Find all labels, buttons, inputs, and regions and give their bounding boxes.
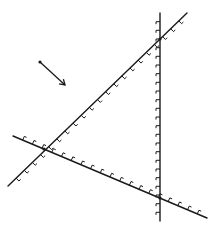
hatch-tick (114, 84, 119, 87)
hatch-tick (138, 60, 143, 63)
hatch-tick (49, 147, 54, 150)
hatch-tick (62, 153, 66, 157)
hatch-tick (32, 141, 36, 145)
hatch-tick (106, 92, 111, 95)
hatch-tick (81, 161, 85, 165)
hatch-tick (149, 190, 153, 194)
hatch-tick (171, 29, 176, 32)
hatch-tick (188, 206, 192, 210)
direction-arrow (38, 60, 65, 85)
arrow-shaft (40, 62, 65, 85)
hatch-tick (32, 162, 37, 165)
hatch-tick (41, 155, 46, 158)
vertical-constraint (156, 13, 160, 221)
hatch-tick (122, 76, 127, 79)
hatch-tick (57, 139, 62, 142)
hatch-tick (130, 68, 135, 71)
hatch-tick (73, 123, 78, 126)
hatch-tick (24, 170, 29, 173)
hatch-tick (139, 186, 143, 190)
hatch-tick (16, 178, 21, 181)
hatch-tick (120, 177, 124, 181)
hatch-tick (110, 173, 114, 177)
intersection-point (158, 37, 161, 40)
hatch-tick (129, 182, 133, 186)
intersection-point (158, 196, 161, 199)
hatch-tick (81, 115, 86, 118)
hatch-tick (197, 210, 201, 214)
hatch-tick (89, 107, 94, 110)
hatch-tick (91, 165, 95, 169)
hatch-tick (23, 136, 27, 140)
constraint-lines (8, 13, 207, 221)
hatch-tick (163, 37, 168, 40)
hatch-tick (155, 45, 160, 48)
hatch-tick (100, 169, 104, 173)
hatch-tick (178, 202, 182, 206)
hatch-tick (179, 21, 184, 24)
hatch-tick (71, 157, 75, 161)
hatch-tick (146, 52, 151, 55)
intersection-point (42, 147, 45, 150)
diagram-canvas (0, 0, 216, 232)
hatch-tick (168, 198, 172, 202)
hatch-tick (65, 131, 70, 134)
hatch-tick (98, 100, 103, 103)
descending-constraint (13, 136, 207, 218)
